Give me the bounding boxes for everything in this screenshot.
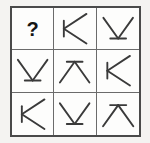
question-mark-label: ? [27,19,39,39]
matrix-cell-r1c2[interactable] [54,8,96,50]
chevron-down-icon [97,8,139,49]
chevron-down-icon [12,50,53,91]
chevron-down-icon [54,93,95,135]
chevron-left-icon [12,93,53,135]
chevron-left-icon [54,8,95,49]
chevron-up-icon [97,93,139,135]
matrix-cell-r2c1[interactable] [12,50,54,92]
chevron-left-icon [97,50,139,91]
puzzle-root: ? [0,0,150,143]
matrix-cell-r1c3[interactable] [97,8,139,50]
matrix-cell-r3c1[interactable] [12,93,54,135]
matrix-cell-r3c3[interactable] [97,93,139,135]
matrix-cell-r2c3[interactable] [97,50,139,92]
matrix-cell-r2c2[interactable] [54,50,96,92]
matrix-cell-r1c1[interactable]: ? [12,8,54,50]
chevron-up-icon [54,50,95,91]
matrix-grid: ? [10,6,141,137]
matrix-cell-r3c2[interactable] [54,93,96,135]
